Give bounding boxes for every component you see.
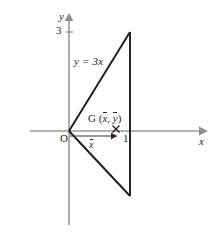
y-axis-arrowhead-icon: [65, 13, 74, 21]
xbar-dimension-label-text: x: [89, 139, 93, 150]
line-y-equals-minus-3x: [69, 131, 130, 196]
xbar-dimension-arrow: [70, 133, 118, 139]
origin-label: O: [60, 133, 68, 144]
x-axis: [30, 127, 208, 136]
xbar-dimension-arrowhead-icon: [111, 133, 118, 139]
centroid-label-ybar: y: [113, 112, 118, 124]
x-axis-label: x: [199, 136, 204, 147]
y-axis-label: y: [59, 11, 64, 22]
centroid-label-close-paren: ): [118, 112, 122, 124]
figure-canvas: y x 3 1 O y = 3x G (x, y) x: [0, 0, 219, 237]
centroid-label: G (x, y): [88, 112, 121, 124]
equation-label: y = 3x: [74, 56, 103, 67]
xbar-dimension-label: x: [89, 139, 93, 150]
x-axis-tick-label-1: 1: [123, 133, 129, 144]
centroid-label-g: G: [88, 112, 96, 124]
y-axis: [65, 13, 74, 225]
y-axis-tick-label-3: 3: [56, 25, 62, 36]
centroid-label-xbar: x: [102, 112, 107, 124]
